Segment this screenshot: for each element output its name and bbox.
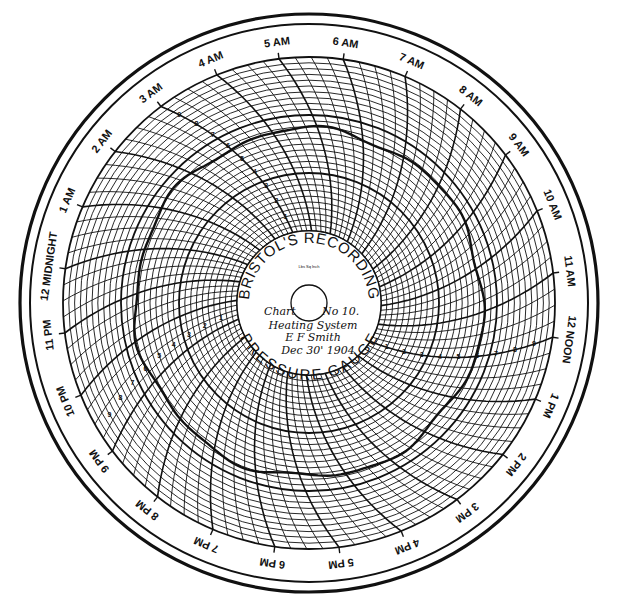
pressure-scale-number: 1 (283, 213, 287, 220)
chart-number: No 10. (321, 305, 359, 318)
pressure-scale-number: 4 (172, 341, 176, 348)
hour-label: 2 PM (504, 451, 529, 479)
pressure-scale-number: 2 (274, 197, 278, 204)
pressure-scale-number: 3 (264, 182, 268, 189)
pressure-scale-number: 4 (438, 353, 442, 360)
hour-label: 11 PM (40, 319, 56, 351)
hour-label: 12 NOON (560, 315, 579, 365)
hour-label: 3 AM (137, 80, 165, 105)
pressure-chart-disc: 12 NOON1 PM2 PM3 PM4 PM5 PM6 PM7 PM8 PM9… (0, 0, 625, 599)
chart-label-left: Chart (264, 305, 296, 318)
pressure-scale-number: 2 (402, 348, 406, 355)
pressure-scale-number: 4 (253, 168, 257, 175)
hour-label: 11 AM (562, 255, 578, 288)
pressure-scale-number: 9 (177, 111, 181, 118)
pressure-scale-number: 5 (240, 155, 244, 162)
hour-label: 7 AM (398, 50, 427, 71)
unit-label: Lbs Sq Inch (298, 264, 319, 269)
pressure-scale-number: 3 (420, 351, 424, 358)
hour-label: 6 AM (332, 35, 359, 50)
hour-label: 10 PM (54, 385, 77, 419)
pressure-scale-number: 9 (107, 411, 111, 418)
pressure-scale-number: 5 (157, 352, 161, 359)
owner-label: E F Smith (284, 331, 341, 344)
hour-label: 7 PM (192, 535, 220, 556)
pressure-scale-number: 8 (195, 120, 199, 127)
hour-label: 4 PM (393, 537, 421, 558)
pressure-scale-number: 6 (226, 142, 230, 149)
hour-label: 8 AM (457, 83, 485, 108)
hour-label: 5 PM (328, 557, 355, 572)
hour-label: 10 AM (541, 187, 564, 221)
pressure-scale-number: 1 (219, 314, 223, 321)
hour-label: 9 PM (86, 448, 111, 476)
pressure-scale-number: 6 (475, 352, 479, 359)
pressure-scale-number: 8 (119, 394, 123, 401)
hour-label: 1 AM (56, 186, 77, 215)
pressure-scale-number: 7 (211, 131, 215, 138)
pressure-scale-number: 7 (494, 350, 498, 357)
pressure-scale-number: 7 (131, 379, 135, 386)
hour-label: 6 PM (259, 556, 286, 571)
hour-label: 9 AM (507, 131, 532, 159)
pressure-scale-number: 1 (385, 343, 389, 350)
pressure-scale-number: 6 (143, 365, 147, 372)
pressure-scale-number: 9 (532, 340, 536, 347)
hour-label: 8 PM (133, 498, 161, 523)
hour-label: 4 AM (196, 49, 224, 70)
hour-label: 3 PM (453, 501, 481, 526)
hour-label: 5 AM (263, 34, 290, 49)
pressure-scale-number: 5 (456, 353, 460, 360)
pressure-scale-number: 2 (203, 322, 207, 329)
hour-label: 12 MIDNIGHT (38, 231, 60, 302)
pressure-scale-number: 8 (513, 346, 517, 353)
hour-label: 1 PM (541, 392, 562, 420)
pressure-scale-number: 3 (187, 331, 191, 338)
hour-label: 2 AM (89, 127, 114, 155)
date-label: Dec 30' 1904 (280, 344, 355, 357)
